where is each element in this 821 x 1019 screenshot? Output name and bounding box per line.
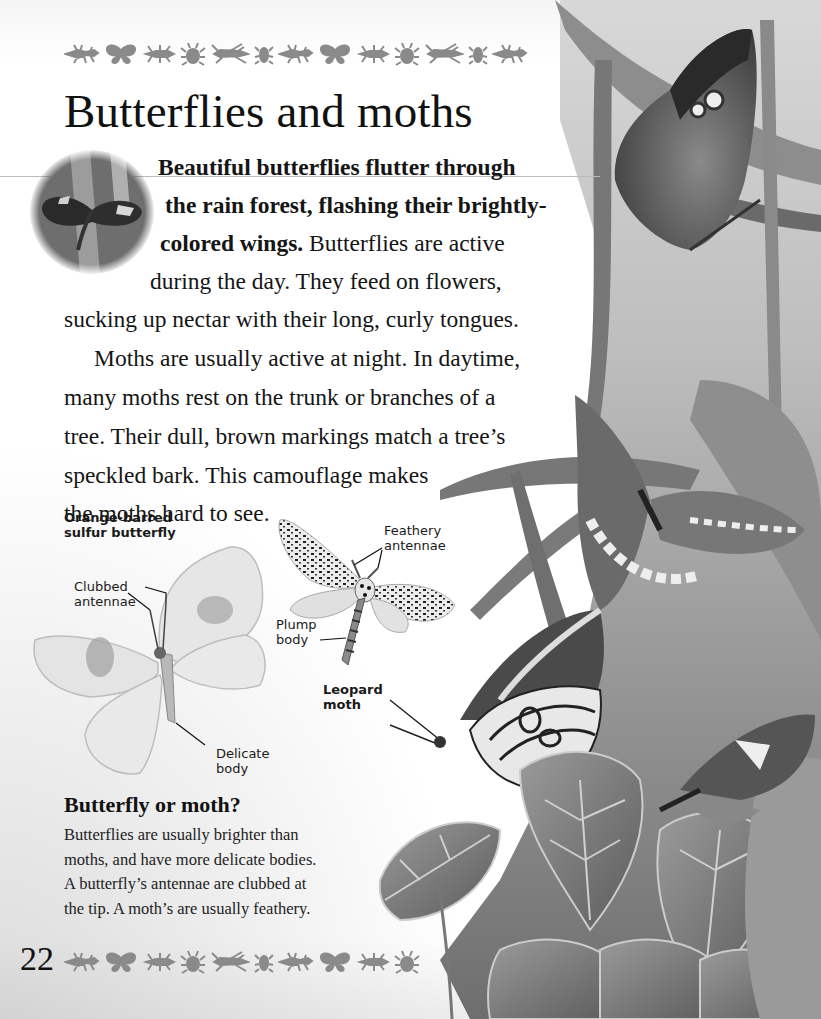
beetle-icon	[142, 951, 176, 973]
butterfly-icon	[104, 43, 138, 65]
body-line-4: speckled bark. This camouflage makes	[64, 456, 428, 495]
clubbed-antennae-label: Clubbed antennae	[74, 579, 136, 609]
sidebar-text: Butterflies are usually brighter than mo…	[64, 823, 384, 921]
bug-icon	[180, 950, 206, 974]
sidebar-line-2: moths, and have more delicate bodies.	[64, 848, 384, 873]
bug-icon	[394, 42, 420, 66]
beetle-icon	[356, 43, 390, 65]
insect-border-bottom	[64, 950, 420, 974]
body-line-1: Moths are usually active at night. In da…	[94, 339, 520, 378]
body-line-2: many moths rest on the trunk or branches…	[64, 378, 495, 417]
sidebar-line-4: the tip. A moth’s are usually feathery.	[64, 897, 384, 922]
leopard-moth-name: Leopard moth	[323, 682, 383, 712]
wasp-icon	[278, 951, 314, 973]
grasshopper-icon	[210, 43, 250, 65]
beetle-icon	[356, 951, 390, 973]
grasshopper-icon	[210, 951, 250, 973]
wasp-icon	[492, 43, 528, 65]
intro-line-1: Beautiful butterflies flutter through	[158, 148, 516, 187]
grasshopper-icon	[424, 43, 464, 65]
intro-line-4: during the day. They feed on flowers,	[150, 262, 502, 301]
sidebar-line-3: A butterfly’s antennae are clubbed at	[64, 872, 384, 897]
butterfly-icon	[318, 951, 352, 973]
sulfur-butterfly-illustration	[30, 545, 275, 780]
small-beetle-icon	[254, 950, 274, 974]
wasp-icon	[278, 43, 314, 65]
inset-butterfly-photo	[30, 150, 154, 274]
intro-line-3: colored wings. Butterflies are active	[160, 224, 505, 263]
butterfly-icon	[104, 951, 138, 973]
plump-body-label: Plump body	[276, 617, 317, 647]
delicate-body-label: Delicate body	[216, 746, 269, 776]
butterfly-photo-icon	[30, 150, 154, 274]
butterfly-icon	[318, 43, 352, 65]
intro-line-5: sucking up nectar with their long, curly…	[64, 300, 519, 339]
bug-icon	[180, 42, 206, 66]
body-line-3: tree. Their dull, brown markings match a…	[64, 417, 505, 456]
insect-border-top	[64, 42, 528, 66]
wasp-icon	[64, 951, 100, 973]
page-title: Butterflies and moths	[64, 84, 473, 138]
wasp-icon	[64, 43, 100, 65]
sidebar-heading: Butterfly or moth?	[64, 792, 241, 818]
small-beetle-icon	[254, 42, 274, 66]
bug-icon	[394, 950, 420, 974]
feathery-antennae-label: Feathery antennae	[384, 523, 446, 553]
sidebar-line-1: Butterflies are usually brighter than	[64, 823, 384, 848]
sulfur-butterfly-name: Orange-barred sulfur butterfly	[64, 510, 176, 540]
page-number: 22	[20, 940, 54, 978]
intro-line-2: the rain forest, flashing their brightly…	[165, 186, 547, 225]
small-beetle-icon	[468, 42, 488, 66]
beetle-icon	[142, 43, 176, 65]
